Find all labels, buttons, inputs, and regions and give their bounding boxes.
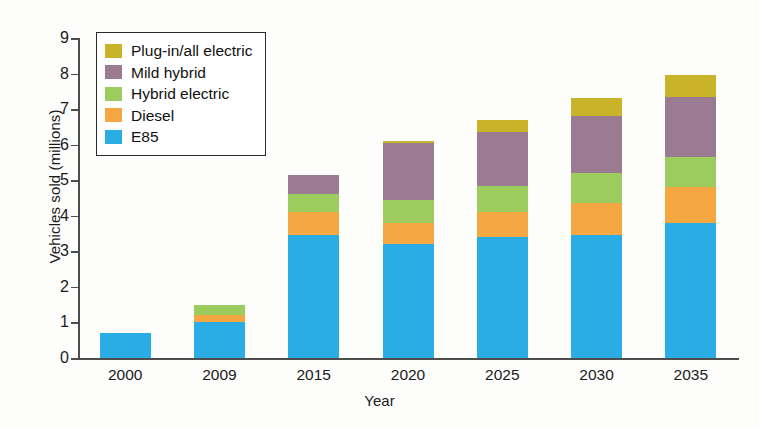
x-tick-label-2030: 2030 — [579, 366, 613, 384]
bar-segment-hybrid-electric — [383, 200, 434, 223]
x-tick-label-2009: 2009 — [202, 366, 236, 384]
legend-item-plug-in-all-electric[interactable]: Plug-in/all electric — [105, 40, 252, 62]
legend-item-label: E85 — [131, 129, 159, 145]
x-tick-label-2020: 2020 — [391, 366, 425, 384]
y-tick-label: 5 — [60, 172, 69, 188]
y-tick-mark — [71, 180, 78, 182]
y-tick-label: 7 — [60, 101, 69, 117]
y-tick-mark — [71, 216, 78, 218]
x-tick-label-2000: 2000 — [108, 366, 142, 384]
y-tick-label: 1 — [60, 314, 69, 330]
bar-segment-mild-hybrid — [665, 97, 716, 157]
y-tick-label: 8 — [60, 66, 69, 82]
y-tick-label: 3 — [60, 243, 69, 259]
bar-2035 — [665, 75, 716, 358]
x-axis-title: Year — [0, 392, 759, 409]
bar-segment-mild-hybrid — [288, 175, 339, 195]
stacked-bar-chart: Vehicles sold (millions) 0123456789 2000… — [0, 0, 759, 429]
x-tick-label-2025: 2025 — [485, 366, 519, 384]
legend-swatch-icon — [105, 130, 122, 144]
legend-swatch-icon — [105, 44, 122, 58]
bar-segment-e85 — [383, 244, 434, 358]
legend-item-label: Plug-in/all electric — [131, 43, 252, 59]
bar-segment-diesel — [288, 212, 339, 235]
bar-segment-mild-hybrid — [571, 116, 622, 173]
bar-segment-e85 — [194, 322, 245, 358]
legend-item-hybrid-electric[interactable]: Hybrid electric — [105, 83, 252, 105]
y-axis-line — [78, 38, 80, 359]
legend-item-e85[interactable]: E85 — [105, 126, 252, 148]
y-tick-mark — [71, 322, 78, 324]
legend-item-mild-hybrid[interactable]: Mild hybrid — [105, 62, 252, 84]
bar-2015 — [288, 175, 339, 358]
bar-segment-hybrid-electric — [665, 157, 716, 187]
bar-segment-diesel — [665, 187, 716, 223]
bar-segment-plug-in-all-electric — [571, 98, 622, 116]
chart-legend: Plug-in/all electricMild hybridHybrid el… — [96, 32, 266, 156]
bar-segment-e85 — [477, 237, 528, 358]
y-tick-mark — [71, 109, 78, 111]
legend-item-diesel[interactable]: Diesel — [105, 105, 252, 127]
bar-segment-hybrid-electric — [194, 305, 245, 316]
bar-segment-diesel — [477, 212, 528, 237]
y-tick-mark — [71, 251, 78, 253]
y-tick-mark — [71, 145, 78, 147]
bar-segment-e85 — [571, 235, 622, 358]
bar-segment-plug-in-all-electric — [665, 75, 716, 96]
y-tick-label: 4 — [60, 208, 69, 224]
bar-segment-hybrid-electric — [477, 186, 528, 213]
y-tick-mark — [71, 74, 78, 76]
x-axis-line — [78, 358, 739, 360]
x-tick-label-2015: 2015 — [296, 366, 330, 384]
y-tick-label: 9 — [60, 30, 69, 46]
bar-2025 — [477, 120, 528, 358]
legend-item-label: Hybrid electric — [131, 86, 229, 102]
y-tick-label: 0 — [60, 350, 69, 366]
bar-segment-diesel — [194, 315, 245, 322]
bar-segment-diesel — [571, 203, 622, 235]
legend-item-label: Mild hybrid — [131, 65, 206, 81]
y-tick-mark — [71, 287, 78, 289]
bar-segment-plug-in-all-electric — [477, 120, 528, 132]
bar-2000 — [100, 333, 151, 358]
bar-segment-hybrid-electric — [288, 194, 339, 212]
bar-segment-e85 — [665, 223, 716, 358]
bar-segment-mild-hybrid — [383, 143, 434, 200]
legend-swatch-icon — [105, 65, 122, 79]
legend-swatch-icon — [105, 108, 122, 122]
bar-segment-e85 — [288, 235, 339, 358]
bar-segment-hybrid-electric — [571, 173, 622, 203]
x-tick-label-2035: 2035 — [674, 366, 708, 384]
bar-2030 — [571, 98, 622, 358]
bar-segment-e85 — [100, 333, 151, 358]
bar-2009 — [194, 305, 245, 358]
y-tick-mark — [71, 358, 78, 360]
y-tick-mark — [71, 38, 78, 40]
legend-item-label: Diesel — [131, 108, 174, 124]
bar-segment-mild-hybrid — [477, 132, 528, 185]
y-tick-label: 2 — [60, 279, 69, 295]
y-tick-label: 6 — [60, 137, 69, 153]
bar-2020 — [383, 141, 434, 358]
legend-swatch-icon — [105, 87, 122, 101]
bar-segment-diesel — [383, 223, 434, 244]
